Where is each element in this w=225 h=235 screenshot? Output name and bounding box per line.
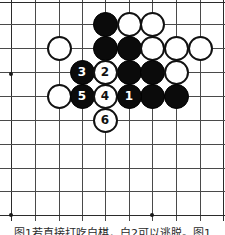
- stone-white[interactable]: [140, 36, 165, 61]
- stone-black[interactable]: [140, 84, 165, 109]
- figure-caption-text: 图1若直接打吃白棋，白2可以逃脱。图1: [14, 228, 211, 235]
- stone-black[interactable]: [93, 36, 118, 61]
- grid-line-vertical: [176, 0, 177, 221]
- stone-white[interactable]: [164, 60, 189, 85]
- star-point: [9, 72, 13, 76]
- grid-line-horizontal: [0, 144, 225, 145]
- grid-line-vertical: [35, 0, 36, 221]
- move-stone-1[interactable]: 1: [117, 84, 142, 109]
- move-number: 5: [78, 90, 86, 102]
- grid-line-horizontal: [0, 215, 225, 216]
- move-stone-2[interactable]: 2: [93, 60, 118, 85]
- star-point: [150, 213, 154, 217]
- star-point: [9, 213, 13, 217]
- grid-line-vertical: [200, 0, 201, 221]
- stone-white[interactable]: [140, 12, 165, 37]
- move-stone-4[interactable]: 4: [93, 84, 118, 109]
- move-number: 1: [125, 90, 133, 102]
- stone-white[interactable]: [188, 36, 213, 61]
- stone-black[interactable]: [140, 60, 165, 85]
- stone-black[interactable]: [117, 36, 142, 61]
- grid-line-horizontal: [0, 168, 225, 169]
- move-stone-3[interactable]: 3: [70, 60, 95, 85]
- grid-line-vertical: [82, 0, 83, 221]
- grid-line-vertical: [59, 0, 60, 221]
- grid-line-vertical: [11, 0, 12, 221]
- move-stone-5[interactable]: 5: [70, 84, 95, 109]
- stone-white[interactable]: [47, 36, 72, 61]
- stone-black[interactable]: [117, 60, 142, 85]
- go-diagram-figure: 325416 图1若直接打吃白棋，白2可以逃脱。图1: [0, 0, 225, 235]
- stone-black[interactable]: [93, 12, 118, 37]
- grid-line-vertical: [223, 0, 224, 221]
- move-number: 3: [78, 66, 86, 78]
- stone-white[interactable]: [117, 12, 142, 37]
- stone-white[interactable]: [47, 84, 72, 109]
- move-number: 6: [101, 114, 109, 126]
- move-number: 2: [101, 66, 109, 78]
- figure-caption: 图1若直接打吃白棋，白2可以逃脱。图1: [0, 221, 225, 235]
- move-stone-6[interactable]: 6: [93, 108, 118, 133]
- grid-line-horizontal: [0, 191, 225, 192]
- stone-white[interactable]: [164, 36, 189, 61]
- move-number: 4: [101, 90, 109, 102]
- stone-black[interactable]: [164, 84, 189, 109]
- grid-line-horizontal: [0, 2, 225, 3]
- go-board[interactable]: 325416: [0, 0, 225, 221]
